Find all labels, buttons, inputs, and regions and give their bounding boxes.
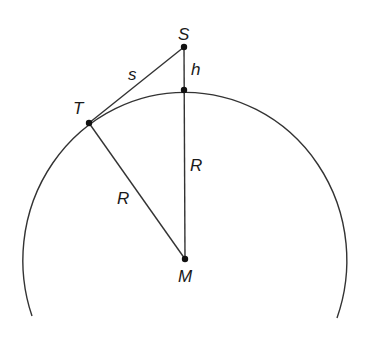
label-R-diagonal: R (117, 189, 129, 208)
label-S: S (178, 25, 190, 44)
vertical-line-h-R (184, 47, 185, 259)
label-T: T (73, 99, 85, 118)
geometry-figure: S h s T R R M (0, 0, 366, 341)
point-T (86, 120, 92, 126)
label-R-vertical: R (190, 156, 202, 175)
tangent-line-s (89, 47, 184, 123)
diagram-canvas: S h s T R R M (0, 0, 366, 341)
label-M: M (178, 267, 193, 286)
label-h: h (191, 60, 200, 79)
point-S (181, 44, 187, 50)
point-top-of-circle (181, 87, 187, 93)
label-s: s (128, 65, 137, 84)
point-M (182, 256, 188, 262)
radius-line-T-M (89, 123, 185, 259)
